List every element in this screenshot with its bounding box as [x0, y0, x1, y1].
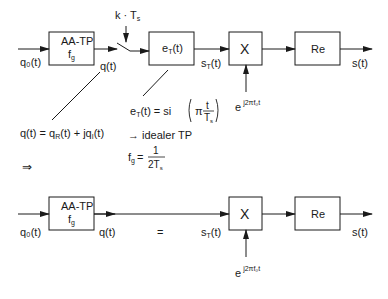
fg-num: 1: [153, 145, 159, 156]
pi-symbol: π: [195, 105, 203, 117]
q0-label: q₀(t): [20, 56, 41, 68]
q-label: q(t): [100, 60, 117, 72]
implies-arrow: ⇒: [22, 160, 32, 174]
bottom-sT-label: sT(t): [201, 226, 221, 239]
bottom-q0-label: q₀(t): [20, 226, 41, 238]
sampler-switch: [117, 43, 130, 51]
sampler-label: k · Ts: [115, 9, 141, 22]
bottom-q-label: q(t): [99, 226, 116, 238]
block-diagram: AA-TP fg q₀(t) q(t) k · Ts eT(t) sT(t) X…: [0, 0, 388, 299]
aa-tp-fg: fg: [68, 48, 75, 62]
right-paren: [216, 99, 218, 122]
left-paren: [189, 99, 191, 122]
bottom-aa-tp-fg: fg: [68, 213, 75, 227]
q-leader-line: [52, 72, 100, 120]
q-decomposition: q(t) = qR(t) + jqI(t): [20, 127, 104, 140]
bottom-aa-tp-label: AA-TP: [61, 200, 93, 212]
sT-label: sT(t): [201, 57, 221, 70]
bottom-re-label: Re: [311, 208, 325, 220]
ideal-tp-note: → idealer TP: [128, 129, 192, 141]
eT-box-label: eT(t): [162, 42, 183, 55]
eT-def-den: Ts: [204, 112, 213, 124]
re-label: Re: [311, 43, 325, 55]
eT-def-num: t: [206, 100, 209, 111]
s-output-label: s(t): [352, 57, 368, 69]
carrier-label: ej2πf₀t: [235, 99, 260, 113]
aa-tp-label: AA-TP: [61, 35, 93, 47]
fg-formula: fg=: [128, 151, 143, 165]
fg-den: 2Ts: [148, 159, 163, 171]
bottom-multiplier-label: X: [240, 206, 250, 222]
multiplier-label: X: [240, 41, 250, 57]
eT-leader-line: [143, 70, 168, 96]
equals-sign: =: [157, 226, 163, 238]
bottom-s-output-label: s(t): [352, 226, 368, 238]
bottom-carrier-label: ej2πf₀t: [235, 265, 260, 279]
eT-definition: eT(t) = si: [130, 105, 171, 118]
